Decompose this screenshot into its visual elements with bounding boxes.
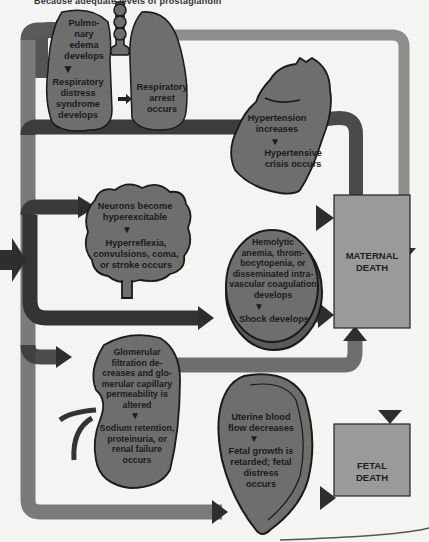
down-arrow-icon: ▼ xyxy=(254,301,264,312)
shock-label: Shock develops xyxy=(228,314,320,325)
down-arrow-icon: ▼ xyxy=(130,410,140,421)
fetal-death-label: FETAL DEATH xyxy=(334,460,410,484)
pulmonary-edema-label: Pulmo- nary edema develops xyxy=(54,18,114,62)
down-arrow-icon: ▼ xyxy=(122,224,132,235)
fetal-growth-label: Fetal growth is retarded; fetal distress… xyxy=(218,446,304,490)
hemolytic-anemia-label: Hemolytic anemia, throm- bocytopenia, or… xyxy=(226,237,320,301)
maternal-death-label: MATERNAL DEATH xyxy=(334,250,410,274)
hypertensive-crisis-label: Hypertensive crisis occurs xyxy=(252,148,334,170)
respiratory-distress-label: Respiratory distress syndrome develops xyxy=(42,77,114,121)
down-arrow-icon: ▼ xyxy=(249,433,259,444)
uterine-blood-flow-label: Uterine blood flow decreases xyxy=(218,412,304,434)
respiratory-arrest-label: Respiratory arrest occurs xyxy=(134,82,190,115)
hypertension-label: Hypertension increases xyxy=(236,113,318,135)
hyperreflexia-label: Hyperreflexia, convulsions, coma, or str… xyxy=(82,238,190,271)
neurons-label: Neurons become hyperexcitable xyxy=(84,201,186,223)
down-arrow-icon: ▼ xyxy=(270,136,280,147)
down-arrow-icon: ▼ xyxy=(62,64,74,75)
sodium-retention-label: Sodium retention, proteinuria, or renal … xyxy=(94,423,180,465)
glomerular-filtration-label: Glomerular filtration de- creases and gl… xyxy=(96,347,178,411)
